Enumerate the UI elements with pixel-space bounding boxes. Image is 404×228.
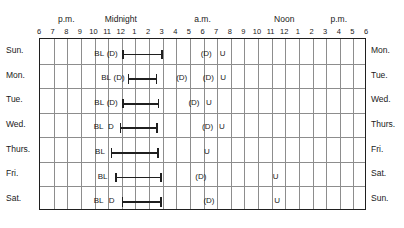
table-row: BL(D)(D)U (40, 39, 367, 64)
event-mark: D (109, 196, 115, 206)
period-label: Midnight (105, 13, 137, 25)
day-label-end: Fri. (371, 144, 404, 154)
sleep-period-bar (115, 177, 162, 179)
event-mark: D (108, 122, 114, 132)
event-mark: BL (98, 172, 108, 182)
period-label: p.m. (330, 13, 347, 25)
hour-tick-label: 5 (187, 26, 191, 37)
sleep-bar-start-cap (122, 50, 124, 60)
day-label-start: Tue. (6, 94, 37, 104)
event-mark: (D) (201, 49, 212, 59)
sleep-period-bar (111, 152, 159, 154)
sleep-bar-end-cap (160, 197, 162, 207)
event-mark: BL (101, 73, 111, 83)
hour-tick-label: 12 (117, 26, 125, 37)
hour-tick-label: 6 (200, 26, 204, 37)
event-mark: U (204, 147, 210, 157)
hour-tick-label: 5 (350, 26, 354, 37)
table-row: BL(D)(D)(D)U (40, 64, 367, 89)
day-label-start: Sun. (6, 45, 37, 55)
day-label-start: Mon. (6, 70, 37, 80)
hour-tick-label: 10 (89, 26, 97, 37)
hour-tick-label: 10 (253, 26, 261, 37)
day-label-start: Thurs. (6, 144, 37, 154)
event-mark: (D) (107, 98, 118, 108)
hour-tick-label: 6 (37, 26, 41, 37)
event-mark: U (220, 73, 226, 83)
day-label-start: Wed. (6, 119, 37, 129)
table-row: BL(D)(D)U (40, 88, 367, 113)
day-label-end: Sat. (371, 168, 404, 178)
sleep-bar-start-cap (128, 74, 130, 84)
day-label-end: Mon. (371, 45, 404, 55)
hour-tick-label: 1 (132, 26, 136, 37)
hour-tick-label: 2 (146, 26, 150, 37)
event-mark: U (219, 122, 225, 132)
sleep-log-chart: p.m.Midnighta.m.Noonp.m. 678910111212345… (0, 0, 404, 228)
event-mark: U (220, 49, 226, 59)
table-row: BLD(D)U (40, 186, 367, 211)
day-label-end: Thurs. (371, 119, 404, 129)
sleep-bar-start-cap (122, 99, 124, 109)
sleep-bar-end-cap (157, 148, 159, 158)
hour-tick-label: 3 (323, 26, 327, 37)
hour-tick-label: 7 (51, 26, 55, 37)
sleep-bar-end-cap (156, 123, 158, 133)
sleep-bar-start-cap (115, 173, 117, 183)
hour-tick-label: 6 (364, 26, 368, 37)
hour-tick-label: 4 (173, 26, 177, 37)
day-label-start: Sat. (6, 193, 37, 203)
event-mark: (D) (203, 196, 214, 206)
event-mark: U (274, 196, 280, 206)
sleep-period-bar (128, 78, 157, 80)
hour-tick-label: 9 (78, 26, 82, 37)
day-label-end: Tue. (371, 70, 404, 80)
event-mark: BL (94, 122, 104, 132)
table-row: BLD(D)U (40, 113, 367, 138)
hour-tick-label: 9 (241, 26, 245, 37)
hour-tick-label: 8 (64, 26, 68, 37)
sleep-period-bar (122, 201, 162, 203)
period-label-row: p.m.Midnighta.m.Noonp.m. (0, 13, 404, 25)
event-mark: BL (95, 147, 105, 157)
sleep-bar-end-cap (160, 173, 162, 183)
sleep-period-bar (120, 127, 158, 129)
event-mark: U (206, 98, 212, 108)
event-mark: BL (94, 196, 104, 206)
hour-tick-label: 4 (337, 26, 341, 37)
event-mark: (D) (195, 172, 206, 182)
period-label: a.m. (194, 13, 211, 25)
table-row: BL(D)U (40, 162, 367, 187)
day-label-end: Wed. (371, 94, 404, 104)
hour-tick-row: 6789101112123456789101112123456 (0, 26, 404, 37)
day-label-end: Sun. (371, 193, 404, 203)
day-label-start: Fri. (6, 168, 37, 178)
sleep-bar-start-cap (122, 197, 124, 207)
hour-tick-label: 2 (309, 26, 313, 37)
hour-tick-label: 1 (296, 26, 300, 37)
event-mark: U (273, 172, 279, 182)
event-mark: BL (94, 49, 104, 59)
table-row: BLU (40, 137, 367, 162)
sleep-period-bar (122, 54, 162, 56)
event-mark: (D) (107, 49, 118, 59)
event-mark: (D) (202, 122, 213, 132)
hour-tick-label: 11 (103, 26, 111, 37)
chart-grid: BL(D)(D)UBL(D)(D)(D)UBL(D)(D)UBLD(D)UBLU… (39, 38, 366, 210)
hour-tick-label: 12 (280, 26, 288, 37)
hour-tick-label: 11 (267, 26, 275, 37)
sleep-bar-start-cap (120, 123, 122, 133)
period-label: Noon (274, 13, 294, 25)
event-mark: (D) (113, 73, 124, 83)
event-mark: (D) (176, 73, 187, 83)
sleep-bar-end-cap (158, 99, 160, 109)
event-mark: BL (94, 98, 104, 108)
event-mark: (D) (188, 98, 199, 108)
sleep-bar-end-cap (156, 74, 158, 84)
sleep-bar-end-cap (161, 50, 163, 60)
event-mark: (D) (203, 73, 214, 83)
hour-tick-label: 8 (228, 26, 232, 37)
sleep-bar-start-cap (111, 148, 113, 158)
period-label: p.m. (58, 13, 75, 25)
sleep-period-bar (122, 103, 159, 105)
